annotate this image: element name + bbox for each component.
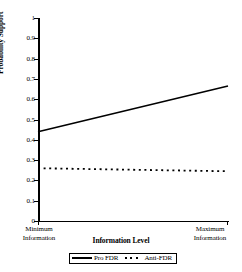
y-axis-tick-label: 0 <box>32 218 35 225</box>
y-axis-tick-label: 1 <box>32 15 35 22</box>
plot-area: 00.10.20.30.40.50.60.70.80.91 <box>38 18 228 221</box>
y-axis-title: Probability Support <box>0 12 5 74</box>
y-axis-tick-label: 0.9 <box>27 35 35 42</box>
legend-swatch-solid-icon <box>72 257 92 259</box>
y-axis-tick-label: 0.1 <box>27 197 35 204</box>
probability-support-line-chart: 00.10.20.30.40.50.60.70.80.91 Probabilit… <box>0 0 242 272</box>
legend-entry-anti-fdr: Anti-FDR <box>118 255 172 262</box>
y-axis-tick-label: 0.4 <box>27 136 35 143</box>
y-axis-tick-label: 0.6 <box>27 96 35 103</box>
y-axis-tick-label: 0.7 <box>27 75 35 82</box>
y-axis-tick-label: 0.2 <box>27 177 35 184</box>
legend-label-anti-fdr: Anti-FDR <box>144 255 172 262</box>
x-axis-max-label: Maximum Information <box>182 225 238 243</box>
legend-swatch-dotted-icon <box>121 257 141 259</box>
series-layer <box>38 18 228 221</box>
legend-label-pro-fdr: Pro FDR <box>94 255 118 262</box>
chart-legend: Pro FDR Anti-FDR <box>69 253 177 264</box>
series-line-pro-fdr <box>38 86 228 132</box>
y-axis-tick-label: 0.8 <box>27 55 35 62</box>
series-line-anti-fdr <box>38 168 228 171</box>
x-axis-min-label-line2: Information <box>11 234 67 243</box>
x-axis-max-label-line2: Information <box>182 234 238 243</box>
legend-entry-pro-fdr: Pro FDR <box>72 255 118 262</box>
x-axis-min-label-line1: Minimum <box>11 225 67 234</box>
x-axis-max-label-line1: Maximum <box>182 225 238 234</box>
y-axis-tick-label: 0.3 <box>27 157 35 164</box>
x-axis-min-label: Minimum Information <box>11 225 67 243</box>
y-axis-tick-label: 0.5 <box>27 116 35 123</box>
